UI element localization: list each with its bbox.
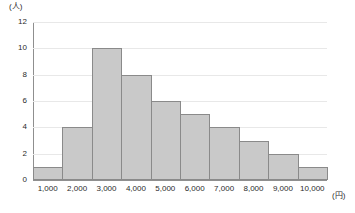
x-axis-tick-label: 6,000 (185, 184, 205, 193)
histogram-bar (33, 167, 63, 180)
y-axis-tick-label: 2 (23, 150, 27, 158)
y-axis-tick-label: 0 (23, 176, 27, 184)
y-axis-unit-label: (人) (9, 2, 22, 12)
histogram-bar (298, 167, 328, 180)
histogram-bar (62, 127, 92, 180)
x-axis-tick-label: 10,000 (300, 184, 324, 193)
x-axis-tick-label: 7,000 (214, 184, 234, 193)
x-axis-tick-label: 3,000 (96, 184, 116, 193)
x-axis-tick-label: 8,000 (243, 184, 263, 193)
bars-group (33, 22, 327, 180)
histogram-bar (239, 141, 269, 181)
x-axis-tick-label: 1,000 (38, 184, 58, 193)
x-axis-baseline: 0 (33, 180, 327, 181)
y-axis-tick-label: 4 (23, 123, 27, 131)
y-axis-tick-label: 6 (23, 97, 27, 105)
y-axis-tick-label: 8 (23, 71, 27, 79)
x-axis-tick-label: 2,000 (67, 184, 87, 193)
histogram-chart: (人) 024681012 1,0002,0003,0004,0005,0006… (0, 0, 355, 213)
histogram-bar (121, 75, 151, 180)
x-axis-tick-label: 4,000 (126, 184, 146, 193)
histogram-bar (209, 127, 239, 180)
histogram-bar (268, 154, 298, 180)
histogram-bar (151, 101, 181, 180)
x-axis-tick-label: 5,000 (155, 184, 175, 193)
histogram-bar (92, 48, 122, 180)
y-axis-tick-label: 12 (18, 18, 27, 26)
y-axis-tick-label: 10 (18, 44, 27, 52)
x-axis-unit-label: (円) (332, 191, 345, 201)
plot-area: 024681012 (33, 22, 327, 180)
x-axis-tick-label: 9,000 (273, 184, 293, 193)
histogram-bar (180, 114, 210, 180)
